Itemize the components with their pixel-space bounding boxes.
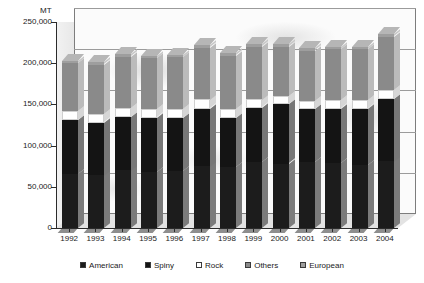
bar-segment-european[interactable] (62, 61, 78, 63)
bar-1995[interactable] (141, 22, 157, 228)
bar-segment-european[interactable] (141, 56, 157, 58)
bar-segment-rock[interactable] (141, 109, 157, 117)
bar-segment-european[interactable] (352, 47, 368, 49)
segment-side-face (341, 104, 347, 163)
bar-segment-american[interactable] (194, 166, 210, 228)
bar-segment-spiny[interactable] (88, 123, 104, 176)
segment-front-face (141, 109, 157, 117)
bar-segment-others[interactable] (246, 47, 262, 100)
bar-segment-spiny[interactable] (325, 109, 341, 163)
bar-segment-spiny[interactable] (141, 118, 157, 172)
bar-segment-rock[interactable] (167, 109, 183, 118)
bar-2003[interactable] (352, 22, 368, 228)
bar-segment-spiny[interactable] (167, 118, 183, 171)
bar-segment-rock[interactable] (62, 111, 78, 120)
bar-2000[interactable] (273, 22, 289, 228)
bar-segment-others[interactable] (194, 48, 210, 100)
bar-segment-others[interactable] (299, 51, 315, 101)
segment-front-face (220, 56, 236, 109)
bar-segment-american[interactable] (141, 172, 157, 228)
segment-side-face (368, 104, 374, 165)
bar-segment-european[interactable] (378, 34, 394, 36)
segment-front-face (167, 118, 183, 171)
bar-segment-others[interactable] (378, 37, 394, 90)
bar-segment-spiny[interactable] (220, 118, 236, 167)
bar-segment-spiny[interactable] (299, 109, 315, 162)
bar-2002[interactable] (325, 22, 341, 228)
bar-segment-european[interactable] (167, 55, 183, 57)
bar-segment-european[interactable] (299, 48, 315, 50)
bar-segment-others[interactable] (352, 49, 368, 100)
bar-segment-rock[interactable] (273, 96, 289, 104)
segment-front-face (141, 58, 157, 109)
bar-segment-rock[interactable] (246, 99, 262, 107)
bar-segment-american[interactable] (299, 162, 315, 228)
bar-segment-others[interactable] (88, 65, 104, 114)
bar-segment-american[interactable] (167, 171, 183, 228)
bar-segment-european[interactable] (220, 53, 236, 55)
bar-segment-others[interactable] (62, 63, 78, 111)
bar-segment-european[interactable] (115, 54, 131, 56)
bar-segment-others[interactable] (325, 49, 341, 100)
bar-1992[interactable] (62, 22, 78, 228)
legend-label: European (309, 261, 344, 270)
bar-segment-european[interactable] (194, 45, 210, 47)
bar-2004[interactable] (378, 22, 394, 228)
segment-side-face (262, 103, 268, 162)
segment-front-face (273, 104, 289, 163)
bar-segment-spiny[interactable] (246, 108, 262, 162)
bar-segment-european[interactable] (273, 44, 289, 46)
legend-item-rock[interactable]: Rock (196, 261, 223, 270)
bar-segment-rock[interactable] (352, 100, 368, 108)
bar-1999[interactable] (246, 22, 262, 228)
segment-front-face (378, 161, 394, 228)
bar-segment-american[interactable] (246, 162, 262, 228)
bar-segment-spiny[interactable] (378, 99, 394, 162)
bar-segment-american[interactable] (352, 165, 368, 228)
bar-segment-european[interactable] (88, 62, 104, 64)
legend-item-others[interactable]: Others (245, 261, 278, 270)
bar-segment-rock[interactable] (325, 100, 341, 108)
bar-segment-rock[interactable] (194, 99, 210, 108)
bar-segment-american[interactable] (220, 167, 236, 228)
bar-segment-rock[interactable] (220, 109, 236, 118)
segment-side-face (341, 45, 347, 101)
bar-1998[interactable] (220, 22, 236, 228)
bar-1997[interactable] (194, 22, 210, 228)
segment-side-face (104, 118, 110, 175)
bar-segment-rock[interactable] (88, 114, 104, 122)
bar-1994[interactable] (115, 22, 131, 228)
segment-side-face (368, 45, 374, 101)
bar-segment-american[interactable] (325, 163, 341, 228)
bar-1996[interactable] (167, 22, 183, 228)
bar-segment-others[interactable] (115, 57, 131, 108)
bar-segment-american[interactable] (378, 161, 394, 228)
legend-item-american[interactable]: American (80, 261, 123, 270)
bar-segment-others[interactable] (220, 56, 236, 109)
bar-segment-rock[interactable] (378, 90, 394, 99)
bar-segment-others[interactable] (167, 57, 183, 109)
segment-side-face (289, 159, 295, 228)
bar-segment-spiny[interactable] (62, 120, 78, 174)
x-tick-mark (359, 228, 360, 232)
bar-segment-american[interactable] (115, 170, 131, 228)
bar-segment-others[interactable] (141, 58, 157, 109)
bar-2001[interactable] (299, 22, 315, 228)
legend-item-spiny[interactable]: Spiny (145, 261, 174, 270)
bar-segment-american[interactable] (62, 174, 78, 228)
bar-segment-european[interactable] (246, 44, 262, 46)
bar-segment-spiny[interactable] (115, 117, 131, 171)
segment-front-face (141, 172, 157, 228)
bar-segment-european[interactable] (325, 47, 341, 49)
legend-item-european[interactable]: European (300, 261, 344, 270)
bar-segment-american[interactable] (88, 175, 104, 228)
bar-segment-rock[interactable] (115, 108, 131, 117)
bar-segment-spiny[interactable] (352, 109, 368, 165)
bar-segment-spiny[interactable] (273, 104, 289, 163)
bar-segment-rock[interactable] (299, 101, 315, 109)
bar-1993[interactable] (88, 22, 104, 228)
y-tick-label: 50,000 (28, 182, 52, 191)
bar-segment-spiny[interactable] (194, 109, 210, 167)
bar-segment-others[interactable] (273, 47, 289, 96)
bar-segment-american[interactable] (273, 164, 289, 228)
